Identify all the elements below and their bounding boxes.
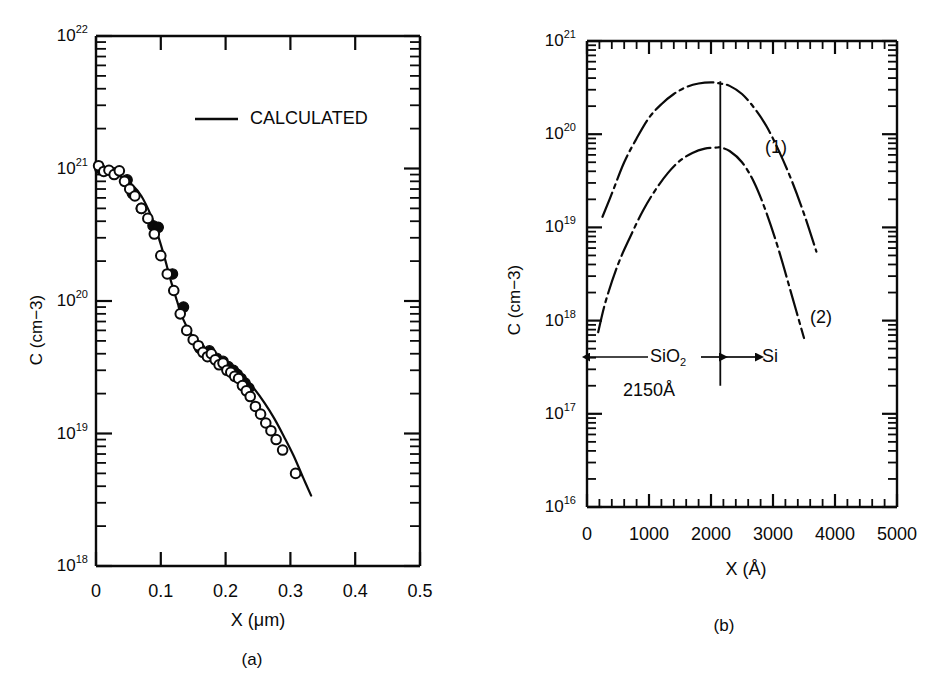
svg-text:C (cm−3): C (cm−3) [505,265,524,335]
panel-b-curve-2-label: (2) [810,307,832,327]
data-point-open [162,269,172,279]
figure-container: 1022 1021 1020 1019 1018 00.10.20.30.40.… [0,0,936,674]
panel-a-x-tick-label: 0.3 [278,581,303,601]
panel-a-y-axis-title: C (cm−3) [27,295,46,365]
panel-a-x-tick-label: 0.5 [407,581,432,601]
data-point-open [271,435,281,445]
panel-a-x-axis-title: X (μm) [231,610,285,630]
sio2-label: SiO2 [650,346,686,368]
panel-b-x-tick-label: 0 [582,524,592,544]
panel-a-x-tick-label: 0.1 [148,581,173,601]
data-point-open [137,204,147,214]
panel-a-x-tick-label: 0 [91,581,101,601]
panel-a-caption: (a) [242,650,263,669]
panel-b-caption: (b) [714,616,735,635]
panel-b-y-major-ticks [587,41,897,507]
panel-b-axis-frame [587,41,897,507]
panel-a-y-minor-ticks [96,42,106,526]
panel-b-x-ticks [587,41,897,507]
legend-label: CALCULATED [250,108,368,128]
panel-a-x-tick-labels: 00.10.20.30.40.5 [91,581,433,601]
panel-a-x-tick-label: 0.4 [343,581,368,601]
svg-text:C (cm−3): C (cm−3) [27,295,46,365]
panel-a-filled-circle-points [95,163,254,393]
svg-text:1018: 1018 [57,553,88,576]
panel-b-y-tick-label: 1021 [545,28,576,51]
data-point-open [182,326,192,336]
data-point-open [130,191,140,201]
panel-b-y-tick-label: 1016 [545,494,576,517]
data-point-open [291,469,301,479]
data-point-open [266,426,276,436]
data-point-open [278,445,288,455]
svg-text:1020: 1020 [57,288,88,311]
si-label: Si [762,346,778,366]
panel-b-x-tick-label: 5000 [877,524,917,544]
panel-b-y-axis-title: C (cm−3) [505,265,524,335]
panel-a-legend: CALCULATED [195,108,368,128]
panel-b-y-tick-labels: 101610171018101910201021 [545,28,576,517]
oxide-thickness-label: 2150Å [623,380,675,400]
panel-b-x-tick-label: 4000 [815,524,855,544]
panel-b-x-tick-labels: 010002000300040005000 [582,524,917,544]
panel-a-x-tick-label: 0.2 [213,581,238,601]
panel-b-curve-2 [598,147,804,338]
panel-b-y-minor-ticks [587,45,897,479]
panel-b-y-tick-label: 1018 [545,308,576,331]
panel-a-y-minor-ticks-right [410,42,420,526]
data-point-open [256,409,266,419]
panel-a-plot: 1022 1021 1020 1019 1018 00.10.20.30.40.… [0,0,468,674]
data-point-open [115,166,125,176]
panel-a-y-tick-labels: 1022 1021 1020 1019 1018 [57,23,88,576]
svg-text:1022: 1022 [57,23,88,46]
panel-b: 101610171018101910201021 010002000300040… [468,0,936,674]
panel-b-x-tick-label: 2000 [691,524,731,544]
panel-a-open-circle-points [94,161,301,478]
svg-text:1019: 1019 [57,420,88,443]
data-point-open [150,229,160,239]
panel-b-y-tick-label: 1017 [545,401,576,424]
panel-b-x-tick-label: 3000 [753,524,793,544]
data-point-open [245,392,255,402]
panel-b-y-tick-label: 1019 [545,214,576,237]
data-point-open [156,251,166,261]
panel-b-plot: 101610171018101910201021 010002000300040… [468,0,936,674]
panel-b-curve-1-label: (1) [765,137,787,157]
data-point-open [175,309,185,319]
panel-b-x-axis-title: X (Å) [725,559,766,579]
panel-b-y-tick-label: 1020 [545,121,576,144]
svg-text:1021: 1021 [57,155,88,178]
panel-b-x-tick-label: 1000 [629,524,669,544]
data-point-open [169,286,179,296]
panel-a: 1022 1021 1020 1019 1018 00.10.20.30.40.… [0,0,468,674]
panel-b-layer-annotation: SiO2 Si 2150Å [590,346,778,400]
data-point-open [143,214,153,224]
